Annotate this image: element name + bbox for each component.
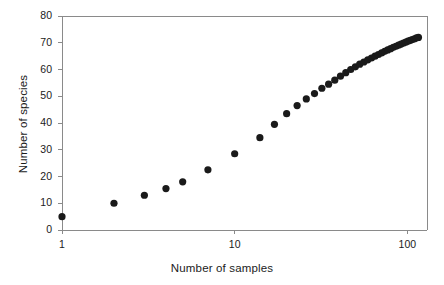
data-point: [204, 166, 211, 173]
y-tick-label: 10: [26, 196, 52, 208]
y-tick-label: 60: [26, 63, 52, 75]
y-tick-label: 20: [26, 170, 52, 182]
data-point-series: [58, 34, 422, 220]
x-tick-label: 10: [215, 238, 255, 250]
data-point: [318, 85, 325, 92]
data-point: [294, 102, 301, 109]
data-point: [311, 90, 318, 97]
data-point: [271, 121, 278, 128]
y-tick-label: 80: [26, 9, 52, 21]
y-tick-label: 50: [26, 89, 52, 101]
y-tick-label: 40: [26, 116, 52, 128]
data-point: [303, 95, 310, 102]
data-point: [58, 213, 65, 220]
plot-frame: [62, 16, 427, 230]
x-axis-label: Number of samples: [0, 262, 444, 274]
data-point: [283, 110, 290, 117]
data-point: [325, 81, 332, 88]
data-point: [256, 134, 263, 141]
y-axis-ticks: [58, 16, 62, 230]
data-point: [231, 150, 238, 157]
x-axis-ticks: [62, 230, 407, 234]
data-point: [415, 34, 422, 41]
y-tick-label: 30: [26, 143, 52, 155]
data-point: [110, 200, 117, 207]
data-point: [162, 185, 169, 192]
x-tick-label: 100: [387, 238, 427, 250]
data-point: [141, 192, 148, 199]
x-tick-label: 1: [42, 238, 82, 250]
y-tick-label: 0: [26, 223, 52, 235]
data-point: [179, 178, 186, 185]
species-accumulation-chart: Number of species Number of samples 0102…: [0, 0, 444, 285]
y-tick-label: 70: [26, 36, 52, 48]
